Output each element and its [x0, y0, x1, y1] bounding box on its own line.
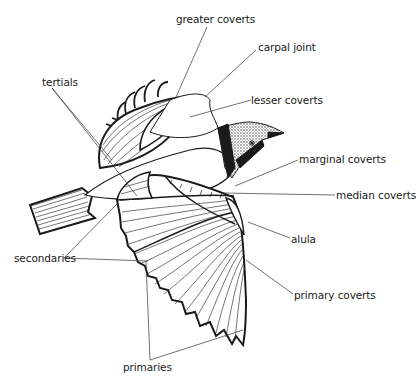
label-carpal-joint: carpal joint — [258, 41, 316, 53]
label-greater-coverts: greater coverts — [176, 13, 255, 25]
label-lesser-coverts: lesser coverts — [251, 94, 323, 106]
label-median-coverts: median coverts — [336, 189, 416, 201]
label-secondaries: secondaries — [14, 252, 76, 264]
label-alula: alula — [291, 233, 316, 245]
label-primaries: primaries — [123, 361, 172, 373]
label-primary-coverts: primary coverts — [294, 289, 376, 301]
label-marginal-coverts: marginal coverts — [299, 153, 386, 165]
lower-wing — [117, 172, 246, 345]
label-tertials: tertials — [42, 76, 78, 88]
